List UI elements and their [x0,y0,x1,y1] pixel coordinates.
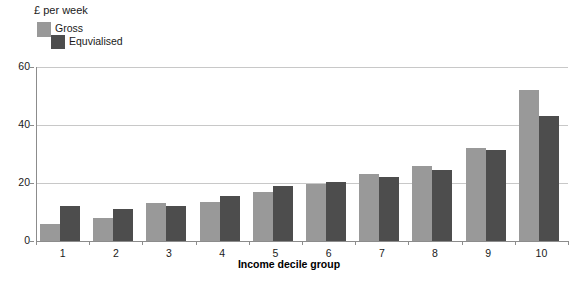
x-tick-mark [568,241,569,245]
bar-gross [253,192,273,241]
bar-group [408,67,461,241]
x-tick-mark [249,241,250,245]
y-tick-label: 20 [6,177,30,188]
bar-group [462,67,515,241]
chart-title: £ per week [34,4,88,17]
bar-group [196,67,249,241]
bar-gross [146,203,166,241]
x-tick-mark [462,241,463,245]
x-tick-mark [408,241,409,245]
chart-legend: Gross Equvialised [37,22,217,50]
plot-area [36,67,568,241]
y-tick-mark [30,67,34,68]
x-axis-title: Income decile group [0,258,578,270]
bar-equivalised [379,177,399,241]
bar-group [515,67,568,241]
legend-label-gross: Gross [55,22,83,35]
legend-swatch-gross [37,22,51,37]
legend-swatch-equivalised [51,35,65,49]
x-tick-mark [142,241,143,245]
x-tick-mark [302,241,303,245]
bar-equivalised [113,209,133,241]
bar-group [36,67,89,241]
legend-label-equivalised: Equvialised [69,35,123,48]
bar-gross [359,174,379,241]
bar-group [249,67,302,241]
y-tick-label: 40 [6,119,30,130]
y-tick-mark [30,125,34,126]
bar-equivalised [273,186,293,241]
bar-gross [412,166,432,241]
bar-equivalised [539,116,559,241]
bar-gross [466,148,486,241]
bar-gross [306,184,326,241]
bar-equivalised [166,206,186,241]
bar-gross [519,90,539,241]
bar-group [142,67,195,241]
y-tick-mark [30,241,34,242]
bars-layer [36,67,568,241]
bar-equivalised [220,196,240,241]
x-tick-mark [89,241,90,245]
bar-group [89,67,142,241]
bar-equivalised [486,150,506,241]
chart-screenshot: £ per week Gross Equvialised 0204060 123… [0,0,578,284]
bar-group [302,67,355,241]
bar-gross [93,218,113,241]
y-tick-label: 60 [6,61,30,72]
x-tick-mark [196,241,197,245]
y-tick-label: 0 [6,235,30,246]
x-tick-mark [36,241,37,245]
bar-gross [200,202,220,241]
bar-group [355,67,408,241]
bar-gross [40,224,60,241]
bar-equivalised [432,170,452,241]
x-tick-mark [515,241,516,245]
y-tick-mark [30,183,34,184]
x-tick-mark [355,241,356,245]
bar-equivalised [60,206,80,241]
y-axis-labels: 0204060 [0,67,30,242]
bar-equivalised [326,182,346,241]
